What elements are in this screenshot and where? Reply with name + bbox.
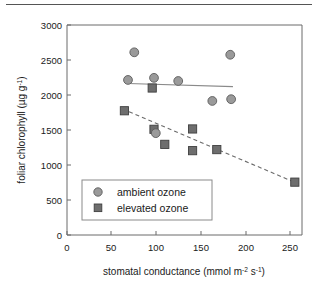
y-tick-label: 1000	[41, 160, 62, 171]
y-tick-label: 0	[57, 230, 62, 241]
data-point-elevated	[188, 147, 196, 155]
x-axis-title: stomatal conductance (mmol m-2 s-1)	[103, 266, 265, 278]
data-point-ambient	[208, 97, 217, 106]
figure-container: 3000 2500 2000 1500 1000 500 0 0 50 100 …	[0, 0, 318, 294]
y-axis-title-main: foliar chlorophyll (µg g	[16, 86, 27, 184]
x-axis-title-mid: s	[248, 266, 256, 277]
y-tick-labels: 3000 2500 2000 1500 1000 500 0	[41, 20, 62, 241]
x-ticks	[67, 231, 290, 235]
y-tick-label: 3000	[41, 20, 62, 31]
data-point-elevated	[213, 146, 221, 154]
data-point-ambient	[226, 50, 235, 59]
legend-label-ambient: ambient ozone	[117, 186, 186, 198]
y-ticks	[67, 25, 71, 235]
legend-label-elevated: elevated ozone	[117, 202, 188, 214]
data-point-ambient	[227, 95, 236, 104]
data-point-elevated	[188, 125, 196, 133]
y-tick-label: 2000	[41, 90, 62, 101]
x-tick-label: 100	[148, 242, 164, 253]
y-axis-title-tail: )	[16, 76, 27, 79]
y-tick-label: 1500	[41, 125, 62, 136]
data-point-elevated	[161, 140, 169, 148]
data-point-ambient	[174, 77, 183, 86]
data-point-elevated	[148, 84, 156, 92]
data-point-ambient	[124, 76, 133, 85]
x-tick-label: 0	[64, 242, 69, 253]
svg-text:foliar chlorophyll (µg g-1): foliar chlorophyll (µg g-1)	[16, 76, 28, 183]
elevated-trend-line	[123, 109, 299, 184]
data-point-elevated	[120, 107, 128, 115]
x-tick-label: 150	[193, 242, 209, 253]
data-point-elevated	[291, 178, 299, 186]
x-tick-labels: 0 50 100 150 200 250	[64, 242, 298, 253]
ambient-ozone-markers	[124, 48, 236, 138]
x-axis-title-tail: )	[262, 266, 265, 277]
legend-marker-circle	[94, 188, 102, 196]
x-axis-title-main: stomatal conductance (mmol m	[103, 266, 242, 277]
svg-text:stomatal conductance (mmol m-2: stomatal conductance (mmol m-2 s-1)	[103, 266, 265, 278]
x-tick-label: 50	[106, 242, 117, 253]
data-point-ambient	[150, 73, 159, 82]
legend: ambient ozone elevated ozone	[82, 180, 212, 220]
y-axis-title: foliar chlorophyll (µg g-1)	[16, 76, 28, 183]
data-point-ambient	[130, 48, 139, 57]
data-point-ambient	[151, 129, 160, 138]
legend-marker-square	[94, 204, 102, 212]
y-tick-label: 2500	[41, 55, 62, 66]
y-tick-label: 500	[46, 195, 62, 206]
x-tick-label: 250	[282, 242, 298, 253]
scatter-plot: 3000 2500 2000 1500 1000 500 0 0 50 100 …	[0, 0, 318, 294]
x-tick-label: 200	[238, 242, 254, 253]
